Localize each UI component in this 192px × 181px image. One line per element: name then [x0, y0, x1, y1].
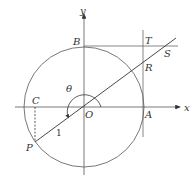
y-axis-label: y [79, 5, 86, 16]
point-label-b: B [72, 36, 80, 47]
angle-label-theta: θ [66, 83, 72, 94]
point-label-r: R [144, 62, 153, 73]
point-label-a: A [144, 109, 152, 120]
radius-label: 1 [56, 128, 62, 138]
point-label-origin: O [85, 109, 93, 120]
point-label-c: C [32, 95, 40, 106]
unit-circle-diagram: y x B T S R θ C O A 1 P [0, 0, 192, 181]
point-label-p: P [25, 142, 33, 153]
x-axis-label: x [184, 102, 190, 113]
point-label-s: S [164, 48, 171, 59]
point-label-t: T [145, 35, 153, 46]
